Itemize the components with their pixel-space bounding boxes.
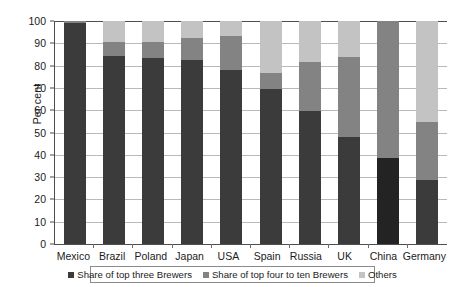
bar-slot-japan — [173, 21, 212, 244]
y-axis-tick-labels: 1009080706050403020100 — [16, 21, 50, 244]
bar-segment-russia-series2 — [299, 21, 321, 62]
chart-legend: Share of top three BrewersShare of top f… — [90, 266, 375, 283]
bar-segment-brazil-series1 — [103, 42, 125, 55]
bar-segment-mexico-series0 — [64, 23, 86, 244]
bar-segment-japan-series0 — [181, 60, 203, 244]
x-axis-label-uk: UK — [325, 248, 364, 264]
bar-slot-poland — [133, 21, 172, 244]
bar-slot-brazil — [94, 21, 133, 244]
stacked-bar-japan[interactable] — [181, 21, 203, 244]
bar-group — [55, 21, 447, 244]
legend-swatch-icon — [203, 272, 209, 278]
x-axis-label-usa: USA — [209, 248, 248, 264]
stacked-bar-germany[interactable] — [416, 21, 438, 244]
plot-area — [54, 21, 447, 245]
x-axis-label-germany: Germany — [403, 248, 446, 264]
y-axis-tick-80: 80 — [34, 60, 46, 71]
y-axis-tick-90: 90 — [34, 38, 46, 49]
legend-swatch-icon — [359, 272, 365, 278]
y-axis-tick-20: 20 — [34, 194, 46, 205]
stacked-bar-chart: Per cent 1009080706050403020100 MexicoBr… — [0, 0, 465, 287]
x-axis-label-china: China — [364, 248, 403, 264]
stacked-bar-usa[interactable] — [220, 21, 242, 244]
bar-segment-poland-series1 — [142, 42, 164, 58]
legend-label: Share of top four to ten Brewers — [212, 270, 348, 280]
bar-segment-germany-series1 — [416, 122, 438, 180]
bar-slot-mexico — [55, 21, 94, 244]
bar-segment-japan-series1 — [181, 38, 203, 60]
stacked-bar-mexico[interactable] — [64, 21, 86, 244]
bar-segment-poland-series0 — [142, 58, 164, 244]
legend-item-2[interactable]: Others — [359, 270, 397, 280]
bar-segment-spain-series0 — [260, 89, 282, 244]
bar-segment-china-series0 — [377, 158, 399, 244]
x-axis-label-russia: Russia — [287, 248, 326, 264]
bar-segment-usa-series1 — [220, 36, 242, 71]
stacked-bar-china[interactable] — [377, 21, 399, 244]
x-axis-label-poland: Poland — [132, 248, 171, 264]
x-axis-label-mexico: Mexico — [54, 248, 93, 264]
y-axis-tick-0: 0 — [40, 239, 46, 250]
bar-segment-uk-series0 — [338, 137, 360, 244]
y-axis-tick-40: 40 — [34, 150, 46, 161]
legend-label: Others — [368, 270, 397, 280]
legend-swatch-icon — [68, 272, 74, 278]
y-axis-tick-30: 30 — [34, 172, 46, 183]
y-axis-tick-50: 50 — [34, 127, 46, 138]
bar-segment-russia-series1 — [299, 62, 321, 111]
bar-segment-germany-series2 — [416, 21, 438, 122]
stacked-bar-spain[interactable] — [260, 21, 282, 244]
x-axis-label-brazil: Brazil — [93, 248, 132, 264]
bar-slot-russia — [290, 21, 329, 244]
bar-segment-spain-series1 — [260, 73, 282, 89]
bar-segment-usa-series2 — [220, 21, 242, 35]
bar-segment-russia-series0 — [299, 111, 321, 244]
bar-segment-brazil-series2 — [103, 21, 125, 42]
bar-slot-uk — [329, 21, 368, 244]
legend-item-1[interactable]: Share of top four to ten Brewers — [203, 270, 348, 280]
x-axis-label-spain: Spain — [248, 248, 287, 264]
y-axis-tick-10: 10 — [34, 216, 46, 227]
bar-segment-usa-series0 — [220, 70, 242, 244]
stacked-bar-brazil[interactable] — [103, 21, 125, 244]
bar-slot-germany — [408, 21, 447, 244]
bar-slot-usa — [212, 21, 251, 244]
bar-slot-spain — [251, 21, 290, 244]
bar-segment-uk-series1 — [338, 57, 360, 137]
bar-segment-uk-series2 — [338, 21, 360, 57]
y-axis-tick-100: 100 — [28, 16, 46, 27]
bar-segment-china-series1 — [377, 21, 399, 158]
bar-slot-china — [369, 21, 408, 244]
y-axis-tick-70: 70 — [34, 83, 46, 94]
x-axis-tick-labels: MexicoBrazilPolandJapanUSASpainRussiaUKC… — [54, 248, 446, 264]
legend-item-0[interactable]: Share of top three Brewers — [68, 270, 192, 280]
legend-label: Share of top three Brewers — [77, 270, 192, 280]
bar-segment-japan-series2 — [181, 21, 203, 38]
bar-segment-germany-series0 — [416, 180, 438, 244]
bar-segment-brazil-series0 — [103, 56, 125, 244]
stacked-bar-russia[interactable] — [299, 21, 321, 244]
bar-segment-spain-series2 — [260, 21, 282, 73]
stacked-bar-poland[interactable] — [142, 21, 164, 244]
y-axis-tick-60: 60 — [34, 105, 46, 116]
x-axis-label-japan: Japan — [170, 248, 209, 264]
stacked-bar-uk[interactable] — [338, 21, 360, 244]
bar-segment-poland-series2 — [142, 21, 164, 42]
